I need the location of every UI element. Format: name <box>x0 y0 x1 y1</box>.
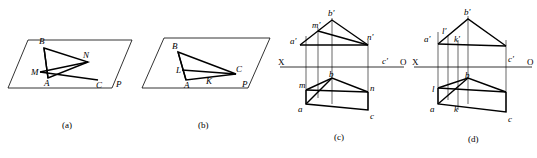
label-b: B <box>39 36 45 46</box>
caption-b: (b) <box>198 120 209 130</box>
label-a-prime: a' <box>424 34 432 44</box>
label-n: N <box>82 50 90 60</box>
figure-root: B N M A C P (a) B L A K C P (b) <box>0 0 537 158</box>
top-line-ab <box>438 78 468 104</box>
label-c-prime: c' <box>382 56 389 66</box>
front-line-mc <box>318 31 368 45</box>
label-l-prime: l' <box>442 26 448 36</box>
caption-a: (a) <box>62 120 72 130</box>
top-line-mn <box>306 90 368 92</box>
label-m: m <box>299 80 306 90</box>
label-p: P <box>115 79 122 89</box>
label-x: X <box>278 57 285 67</box>
label-a: a <box>430 104 435 114</box>
label-c: C <box>236 64 243 74</box>
label-n-prime: n' <box>367 32 375 42</box>
panel-d-drawing: b' l' k' a' X O c' l b k a c (d) <box>408 0 537 158</box>
label-a-prime: a' <box>290 36 298 46</box>
label-a: A <box>43 78 50 88</box>
plane-parallelogram <box>8 40 132 88</box>
panel-d: b' l' k' a' X O c' l b k a c (d) <box>408 0 537 158</box>
label-b: b <box>329 69 334 79</box>
panel-b-drawing: B L A K C P (b) <box>136 0 276 158</box>
label-m-prime: m' <box>312 20 321 30</box>
label-l: l <box>432 84 435 94</box>
label-a: a <box>298 104 303 114</box>
label-n: n <box>370 83 375 93</box>
label-b: b <box>465 70 470 80</box>
panel-a: B N M A C P (a) <box>0 0 140 158</box>
label-c-prime: c' <box>508 54 515 64</box>
label-l: L <box>175 65 181 75</box>
label-b-prime: b' <box>328 8 336 18</box>
label-k-prime: k' <box>454 34 461 44</box>
label-c: c <box>370 111 374 121</box>
front-view-outline <box>300 20 368 45</box>
label-o: O <box>527 57 534 67</box>
label-k: K <box>205 76 213 86</box>
panel-c: m' b' n' a' X O c' m b n a c (c) <box>272 0 412 158</box>
panel-c-drawing: m' b' n' a' X O c' m b n a c (c) <box>272 0 412 158</box>
top-view-lower <box>306 90 368 110</box>
caption-c: (c) <box>334 132 344 142</box>
label-b: B <box>172 41 178 51</box>
label-a: A <box>183 80 190 90</box>
label-c: c <box>508 114 512 124</box>
label-o: O <box>400 57 407 67</box>
panel-b: B L A K C P (b) <box>136 0 276 158</box>
label-b-prime: b' <box>464 7 472 17</box>
caption-d: (d) <box>468 134 479 144</box>
label-m: M <box>30 67 39 77</box>
label-x: X <box>412 57 419 67</box>
label-c: C <box>96 80 103 90</box>
panel-a-drawing: B N M A C P (a) <box>0 0 140 158</box>
label-p: P <box>241 79 248 89</box>
